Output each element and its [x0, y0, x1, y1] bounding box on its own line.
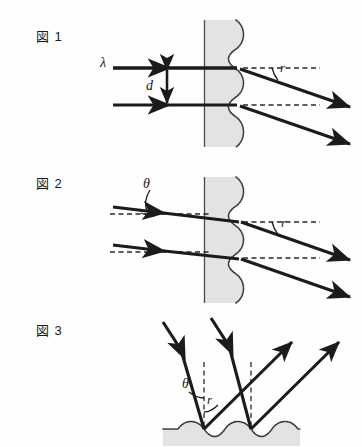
figure-page: 図 1 — [0, 0, 362, 447]
fig3-theta-label: θ — [182, 376, 189, 392]
fig3-reflected-rays — [204, 342, 339, 429]
fig3-incident-rays — [163, 318, 251, 429]
fig3-r-label: r — [207, 392, 212, 408]
fig3-grating-slab — [163, 422, 300, 447]
figure-3-graphics — [0, 0, 362, 447]
